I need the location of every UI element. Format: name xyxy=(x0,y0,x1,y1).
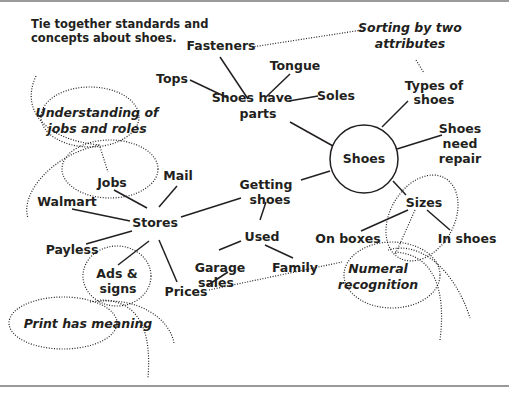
node-payless: Payless xyxy=(46,242,99,257)
standard-jobs-roles-line1: Understanding of xyxy=(36,105,160,120)
node-ads-signs-line2: signs xyxy=(99,281,136,296)
node-used: Used xyxy=(244,229,279,244)
node-jobs: Jobs xyxy=(96,175,127,190)
node-mail: Mail xyxy=(163,168,192,183)
node-soles: Soles xyxy=(317,88,355,103)
node-getting-shoes-line2: shoes xyxy=(250,192,291,207)
node-garage-sales-line1: Garage xyxy=(195,260,246,275)
node-tops: Tops xyxy=(156,71,188,86)
standard-numeral-line2: recognition xyxy=(338,277,419,292)
node-sizes: Sizes xyxy=(406,195,442,210)
node-on-boxes: On boxes xyxy=(315,231,380,246)
node-in-shoes: In shoes xyxy=(438,231,497,246)
node-getting-shoes-line1: Getting xyxy=(240,177,293,192)
node-family: Family xyxy=(272,260,318,275)
node-ads-signs-line1: Ads & xyxy=(96,266,137,281)
node-types-of-shoes-line2: shoes xyxy=(414,92,455,107)
standard-print-meaning: Print has meaning xyxy=(24,316,153,331)
standard-sorting-line2: attributes xyxy=(375,36,446,51)
node-shoes-need-repair-line1: Shoes xyxy=(439,121,481,136)
instruction-text-line2: concepts about shoes. xyxy=(31,31,177,45)
standard-sorting-line1: Sorting by two xyxy=(358,20,462,35)
instruction-text-line1: Tie together standards and xyxy=(31,17,208,31)
node-fasteners: Fasteners xyxy=(186,38,255,53)
node-walmart: Walmart xyxy=(37,194,97,209)
center-node-label: Shoes xyxy=(343,151,385,166)
node-shoes-need-repair-line3: repair xyxy=(439,151,482,166)
node-shoes-need-repair-line2: need xyxy=(443,136,478,151)
node-tongue: Tongue xyxy=(270,58,321,73)
node-types-of-shoes-line1: Types of xyxy=(405,78,464,93)
node-prices: Prices xyxy=(165,284,208,299)
concept-map: Tie together standards and concepts abou… xyxy=(0,0,509,399)
node-shoes-have-parts-line2: parts xyxy=(240,106,277,121)
standard-jobs-roles-line2: jobs and roles xyxy=(45,121,146,136)
node-stores: Stores xyxy=(132,215,178,230)
node-shoes-have-parts-line1: Shoes have xyxy=(212,90,293,105)
standard-numeral-line1: Numeral xyxy=(348,261,408,276)
